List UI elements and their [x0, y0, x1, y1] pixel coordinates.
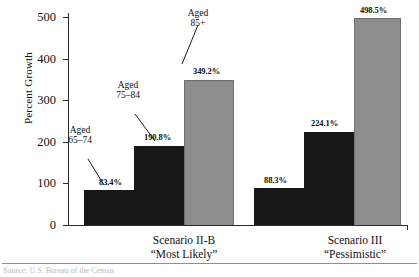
annotation-aged-85-plus-line1: Aged [175, 8, 221, 18]
bar-chart-figure: Percent Growth 500 400 300 200 100 0 83.… [0, 0, 419, 277]
y-tick-label-300: 300 [0, 94, 56, 107]
annotation-aged-75-84-line1: Aged [105, 80, 151, 90]
annotation-aged-85-plus-line2: 85+ [175, 18, 221, 28]
category-label-scenario-2b: Scenario II-B “Most Likely” [124, 234, 244, 261]
category-label-scenario-2b-line2: “Most Likely” [124, 248, 244, 262]
leader-line-aged-85-plus [182, 25, 198, 64]
y-tick-label-500: 500 [0, 11, 56, 24]
y-tick-label-200: 200 [0, 136, 56, 149]
plot-area: 500 400 300 200 100 0 83.4% 190.8% 349.2… [68, 17, 408, 225]
annotation-aged-75-84: Aged 75–84 [105, 80, 151, 101]
x-tick-right [407, 225, 408, 230]
y-tick-label-0: 0 [0, 219, 56, 232]
category-label-scenario-3-line2: “Pessimistic” [295, 248, 415, 262]
footer-divider [2, 263, 417, 264]
y-tick-0 [63, 225, 69, 226]
leader-lines [68, 17, 408, 225]
y-tick-label-400: 400 [0, 53, 56, 66]
leader-line-aged-65-74 [88, 159, 104, 185]
annotation-aged-85-plus: Aged 85+ [175, 8, 221, 29]
footer-caption: Source: U.S. Bureau of the Census [3, 266, 114, 276]
x-axis-line [68, 225, 408, 226]
y-tick-label-100: 100 [0, 177, 56, 190]
annotation-aged-65-74: Aged 65–74 [57, 125, 103, 146]
category-label-scenario-2b-line1: Scenario II-B [124, 234, 244, 248]
annotation-aged-65-74-line1: Aged [57, 125, 103, 135]
category-label-scenario-3-line1: Scenario III [295, 234, 415, 248]
leader-line-aged-75-84 [135, 114, 155, 141]
category-label-scenario-3: Scenario III “Pessimistic” [295, 234, 415, 261]
annotation-aged-65-74-line2: 65–74 [57, 135, 103, 145]
annotation-aged-75-84-line2: 75–84 [105, 90, 151, 100]
value-label-scenario-3-aged-85-plus: 498.5% [360, 5, 387, 15]
